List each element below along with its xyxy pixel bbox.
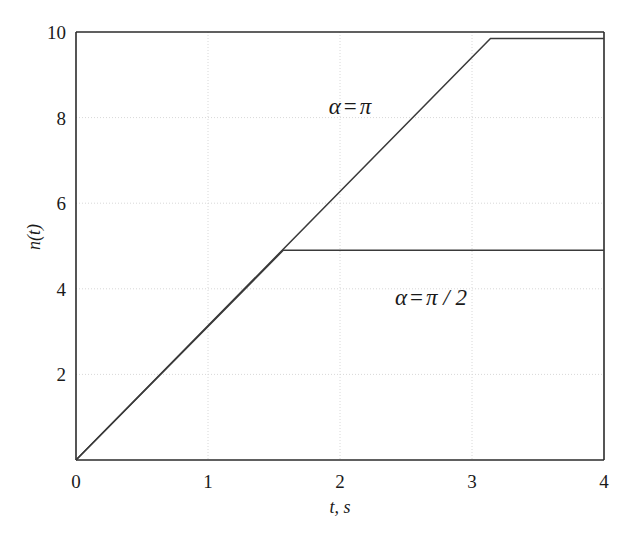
- x-tick-label-0: 0: [71, 472, 81, 491]
- annotation-value: π / 2: [426, 285, 467, 310]
- annotation-alpha-symbol: α: [329, 94, 341, 119]
- y-tick-label-8: 8: [38, 108, 66, 127]
- x-tick-label-3: 3: [467, 472, 477, 491]
- chart-plot-area: [0, 0, 633, 534]
- annotation-value: π: [360, 94, 372, 119]
- annotation-alpha-pi-over-2: α=π / 2: [395, 286, 467, 309]
- x-tick-label-2: 2: [335, 472, 345, 491]
- x-tick-label-1: 1: [203, 472, 213, 491]
- chart-figure: 10 8 6 4 2 0 1 2 3 4 n(t) t, s α=π α=π /…: [0, 0, 633, 534]
- x-axis-title: t, s: [310, 498, 370, 516]
- annotation-equals-symbol: =: [407, 285, 426, 310]
- y-tick-label-4: 4: [38, 279, 66, 298]
- annotation-equals-symbol: =: [341, 94, 360, 119]
- x-tick-label-4: 4: [599, 472, 609, 491]
- y-axis-title: n(t): [25, 215, 43, 259]
- y-tick-label-2: 2: [38, 365, 66, 384]
- y-tick-label-10: 10: [38, 23, 66, 42]
- annotation-alpha-symbol: α: [395, 285, 407, 310]
- annotation-alpha-pi: α=π: [329, 95, 372, 118]
- y-tick-label-6: 6: [38, 194, 66, 213]
